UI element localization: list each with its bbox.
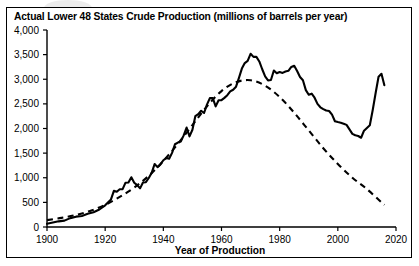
y-tick-label: 1,000 xyxy=(14,172,39,183)
x-tick-label: 1920 xyxy=(94,234,117,245)
y-tick-label: 3,500 xyxy=(14,49,39,60)
y-tick-label: 2,000 xyxy=(14,123,39,134)
x-tick-label: 2020 xyxy=(385,234,408,245)
y-tick-label: 500 xyxy=(22,197,39,208)
x-tick-label: 1940 xyxy=(152,234,175,245)
chart-plot: 05001,0001,5002,0002,5003,0003,5004,000 … xyxy=(0,0,419,266)
y-tick-label: 1,500 xyxy=(14,148,39,159)
y-tick-label: 2,500 xyxy=(14,98,39,109)
series-hubbert-curve xyxy=(47,80,384,220)
x-axis-ticks: 1900192019401960198020002020 xyxy=(36,227,408,245)
axis-lines xyxy=(47,30,396,227)
y-tick-label: 0 xyxy=(33,222,39,233)
x-tick-label: 1980 xyxy=(269,234,292,245)
y-tick-label: 3,000 xyxy=(14,74,39,85)
x-tick-label: 2000 xyxy=(327,234,350,245)
x-axis-title: Year of Production xyxy=(175,245,266,256)
chart-figure: Actual Lower 48 States Crude Production … xyxy=(0,0,419,266)
y-tick-label: 4,000 xyxy=(14,25,39,36)
x-tick-label: 1900 xyxy=(36,234,59,245)
x-tick-label: 1960 xyxy=(210,234,233,245)
series-actual-production xyxy=(47,54,384,224)
y-axis-ticks: 05001,0001,5002,0002,5003,0003,5004,000 xyxy=(14,25,47,233)
